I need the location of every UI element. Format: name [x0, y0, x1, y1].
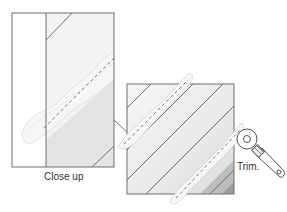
close-up-panel [12, 13, 116, 167]
block-square-panel [127, 84, 234, 194]
close-up-label: Close up [44, 171, 83, 182]
trim-label: Trim. [237, 161, 259, 172]
